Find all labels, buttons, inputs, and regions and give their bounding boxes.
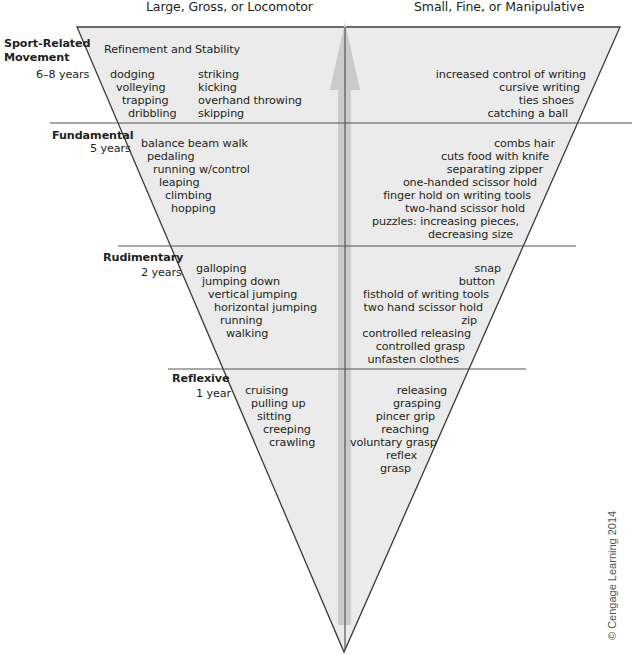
fine-skill: one-handed scissor hold: [360, 176, 537, 189]
fine-skill: zip: [360, 314, 477, 327]
header-gross-motor: Large, Gross, or Locomotor: [146, 0, 313, 13]
gross-skill: vertical jumping: [208, 288, 297, 301]
gross-skill: striking: [198, 68, 239, 81]
fine-skill: reflex: [350, 449, 417, 462]
gross-skill: balance beam walk: [141, 137, 248, 150]
fine-skill: cursive writing: [400, 81, 580, 94]
fine-skill: decreasing size: [360, 228, 513, 241]
gross-skill: overhand throwing: [198, 94, 302, 107]
gross-skill: walking: [226, 327, 268, 340]
fine-skill: snap: [360, 262, 501, 275]
fine-skill: catching a ball: [400, 107, 568, 120]
gross-skill: running: [220, 314, 262, 327]
fine-skill: fisthold of writing tools: [360, 288, 489, 301]
gross-skill: leaping: [159, 176, 200, 189]
fine-skill: controlled releasing: [360, 327, 471, 340]
gross-skill: running w/control: [153, 163, 250, 176]
gross-skill: sitting: [257, 410, 291, 423]
stage-age-5: 5 years: [90, 142, 131, 155]
fine-skill: unfasten clothes: [360, 353, 459, 366]
stage-label-sport-related: Sport-Related: [4, 37, 91, 50]
fine-skill: two hand scissor hold: [360, 301, 483, 314]
motor-development-triangle-diagram: Large, Gross, or Locomotor Small, Fine, …: [0, 0, 644, 660]
stage-label-movement: Movement: [4, 51, 69, 64]
gross-skill: pedaling: [147, 150, 195, 163]
gross-skill: dribbling: [128, 107, 177, 120]
fine-skill: cuts food with knife: [360, 150, 549, 163]
gross-skill: creeping: [263, 423, 311, 436]
fine-skill: increased control of writing: [400, 68, 586, 81]
gross-skill: climbing: [165, 189, 212, 202]
fine-skill: ties shoes: [400, 94, 574, 107]
fine-skill: grasp: [350, 462, 411, 475]
gross-skill: galloping: [196, 262, 247, 275]
fine-skill: releasing: [350, 384, 447, 397]
fine-skill: button: [360, 275, 495, 288]
stage-subtitle: Refinement and Stability: [104, 43, 240, 56]
fine-skill: puzzles: increasing pieces,: [360, 215, 519, 228]
fine-skill: separating zipper: [360, 163, 543, 176]
fine-skill: grasping: [350, 397, 441, 410]
gross-skill: kicking: [198, 81, 237, 94]
gross-skill: hopping: [171, 202, 216, 215]
stage-label-fundamental: Fundamental: [52, 129, 133, 142]
header-fine-motor: Small, Fine, or Manipulative: [414, 0, 584, 13]
gross-skill: skipping: [198, 107, 244, 120]
stage-label-reflexive: Reflexive: [172, 372, 230, 385]
gross-skill: cruising: [245, 384, 288, 397]
stage-age-1: 1 year: [196, 387, 231, 400]
fine-skill: reaching: [350, 423, 429, 436]
fine-skill: pincer grip: [350, 410, 435, 423]
gross-skill: pulling up: [251, 397, 305, 410]
stage-age-6-8: 6–8 years: [36, 68, 89, 81]
fine-skill: controlled grasp: [360, 340, 465, 353]
gross-skill: crawling: [269, 436, 315, 449]
gross-skill: jumping down: [202, 275, 280, 288]
gross-skill: horizontal jumping: [214, 301, 317, 314]
gross-skill: trapping: [122, 94, 169, 107]
fine-skill: voluntary grasp: [350, 436, 423, 449]
stage-age-2: 2 years: [141, 266, 182, 279]
stage-label-rudimentary: Rudimentary: [103, 251, 183, 264]
fine-skill: combs hair: [360, 137, 555, 150]
gross-skill: volleying: [116, 81, 166, 94]
fine-skill: finger hold on writing tools: [360, 189, 531, 202]
fine-skill: two-hand scissor hold: [360, 202, 525, 215]
gross-skill: dodging: [110, 68, 155, 81]
copyright-notice: © Cengage Learning 2014: [606, 511, 618, 640]
